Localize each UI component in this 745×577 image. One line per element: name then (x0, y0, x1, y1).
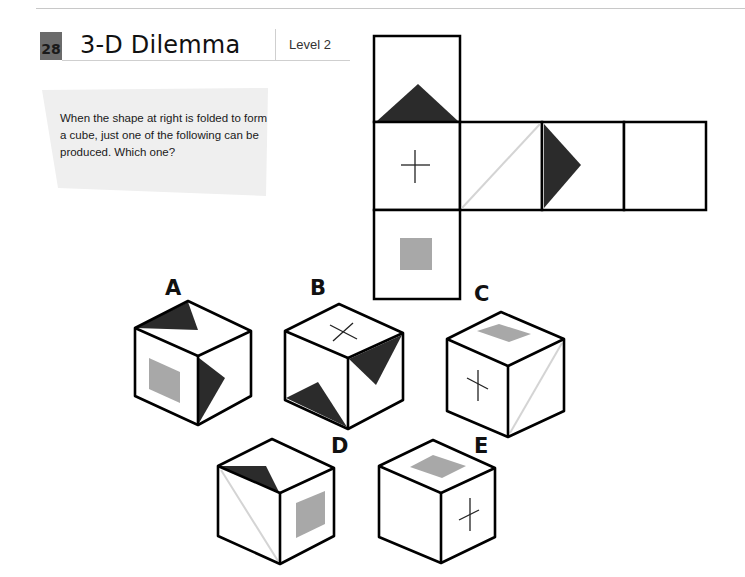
cube-option-c[interactable] (447, 312, 564, 437)
cube-options (0, 0, 745, 577)
dark-triangle-icon (136, 302, 198, 330)
cube-option-a[interactable] (135, 301, 251, 425)
cube-option-d[interactable] (218, 439, 334, 564)
cube-option-e[interactable] (379, 440, 495, 563)
cube-option-b[interactable] (285, 304, 403, 429)
